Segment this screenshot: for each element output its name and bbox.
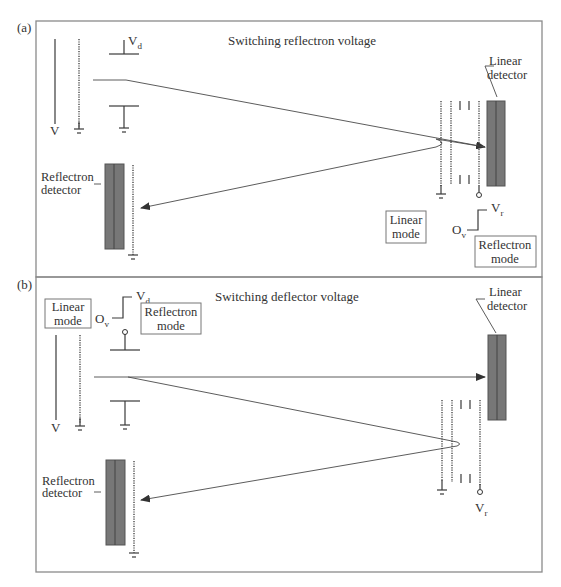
reflectron-terminal-icon: [477, 193, 482, 198]
linear-detector-label: Linear: [489, 54, 522, 68]
panel-b-label: (b): [17, 277, 32, 292]
reflectron-terminal-icon: [478, 490, 483, 495]
linear-detector-label: Linear: [489, 285, 522, 299]
panel-b-title: Switching deflector voltage: [215, 289, 359, 304]
deflector-voltage-label: Vd: [128, 33, 142, 51]
turnaround-path: [436, 139, 485, 147]
svg-text:detector: detector: [41, 183, 82, 197]
svg-text:mode: mode: [392, 227, 420, 241]
ion-path-to-reflectron-detector: [141, 446, 457, 500]
source-voltage-label: V: [51, 420, 61, 435]
tof-reflectron-diagram: (a) Switching reflectron voltage V Vd: [0, 0, 561, 587]
svg-text:Ov: Ov: [452, 222, 466, 240]
reflectron-b: Vr: [437, 400, 487, 518]
step-voltage-icon: [112, 297, 132, 318]
mode-switch-a: Linear mode Ov Vr Reflectron mode: [386, 200, 536, 267]
svg-text:Linear: Linear: [390, 213, 423, 227]
svg-text:Vr: Vr: [491, 200, 503, 218]
svg-text:detector: detector: [487, 68, 528, 82]
panel-a: (a) Switching reflectron voltage V Vd: [17, 20, 542, 277]
ion-path-to-reflectron: [128, 377, 457, 442]
svg-text:mode: mode: [491, 252, 519, 266]
reflectron-detector-label: Reflectron: [41, 170, 95, 184]
deflector-terminal-icon: [123, 330, 128, 335]
deflector-b: [110, 330, 140, 430]
ion-source-b: V: [51, 335, 85, 435]
panel-b: (b) Switching deflector voltage Linear m…: [17, 277, 542, 572]
svg-text:Reflectron: Reflectron: [145, 305, 199, 319]
svg-text:detector: detector: [487, 299, 528, 313]
panel-a-title: Switching reflectron voltage: [228, 33, 376, 48]
ion-path-to-reflectron: [93, 80, 485, 147]
reflectron-a: [436, 101, 482, 198]
svg-text:detector: detector: [42, 486, 83, 500]
svg-text:Ov: Ov: [95, 311, 109, 329]
ion-path-to-reflectron-detector: [141, 147, 436, 208]
svg-text:Vr: Vr: [475, 500, 487, 518]
svg-text:Reflectron: Reflectron: [479, 238, 533, 252]
reflectron-detector-a: Reflectron detector: [41, 164, 138, 259]
ion-source-a: V: [50, 39, 84, 138]
reflectron-detector-b: Reflectron detector: [42, 460, 139, 557]
linear-detector-a: Linear detector: [485, 54, 528, 186]
linear-detector-b: Linear detector: [476, 285, 528, 420]
step-voltage-icon: [467, 210, 487, 230]
svg-text:mode: mode: [157, 319, 185, 333]
panel-a-label: (a): [17, 20, 31, 35]
svg-text:Linear: Linear: [52, 300, 85, 314]
mode-switch-b: Linear mode Ov Vd Reflectron mode: [45, 288, 201, 334]
svg-text:mode: mode: [54, 314, 82, 328]
source-voltage-label: V: [50, 123, 60, 138]
